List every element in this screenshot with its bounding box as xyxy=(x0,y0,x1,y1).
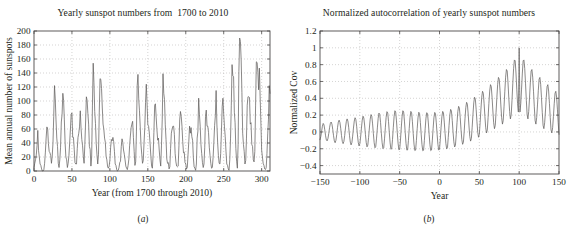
x-axis-label: Year (from 1700 through 2010) xyxy=(92,187,213,199)
panel-b-caption: (b) xyxy=(286,214,572,224)
y-tick-label: 0.6 xyxy=(305,77,317,87)
y-tick-label: 0.4 xyxy=(305,93,317,103)
panel-a: Yearly sunspot numbers from 1700 to 2010… xyxy=(0,0,286,230)
panel-b: Normalized autocorrelation of yearly sun… xyxy=(286,0,572,230)
y-tick-label: 200 xyxy=(17,26,31,36)
y-tick-label: 0.8 xyxy=(305,60,317,70)
y-axis-label: Normalized Cov xyxy=(288,70,299,134)
x-tick-label: 150 xyxy=(141,174,155,184)
x-tick-label: 0 xyxy=(32,174,37,184)
x-tick-label: 50 xyxy=(67,174,77,184)
y-tick-label: 100 xyxy=(17,96,31,106)
x-tick-label: 50 xyxy=(475,177,485,187)
caption-close-paren: ) xyxy=(431,214,434,224)
y-tick-label: 60 xyxy=(21,124,31,134)
x-tick-label: 100 xyxy=(103,174,117,184)
x-tick-label: −50 xyxy=(392,177,407,187)
x-tick-label: 100 xyxy=(512,177,526,187)
x-tick-label: −150 xyxy=(311,177,330,187)
x-tick-label: 300 xyxy=(255,174,269,184)
panel-a-caption: (a) xyxy=(0,214,286,224)
data-series-line xyxy=(320,48,559,151)
y-tick-label: 80 xyxy=(21,110,31,120)
panel-b-plot: −150−100−50050100150−0.4−0.200.20.40.60.… xyxy=(286,0,572,230)
y-tick-label: 1.2 xyxy=(305,26,317,36)
x-tick-label: 150 xyxy=(552,177,566,187)
y-tick-label: 40 xyxy=(21,138,31,148)
x-tick-label: 0 xyxy=(437,177,442,187)
x-axis-label: Year xyxy=(431,190,449,201)
x-tick-label: 200 xyxy=(179,174,193,184)
y-tick-label: −0.4 xyxy=(300,161,317,171)
y-axis-label: Mean annual number of sunspots xyxy=(3,37,14,165)
x-tick-label: −100 xyxy=(350,177,369,187)
panel-a-plot: 0501001502002503000204060801001201401601… xyxy=(0,0,286,230)
y-tick-label: 0 xyxy=(26,166,31,176)
y-tick-label: 1 xyxy=(312,43,317,53)
x-tick-label: 250 xyxy=(217,174,231,184)
y-tick-label: 180 xyxy=(17,40,31,50)
data-series-line xyxy=(34,38,270,171)
y-tick-label: 20 xyxy=(21,152,31,162)
y-tick-label: −0.2 xyxy=(300,144,317,154)
y-tick-label: 140 xyxy=(17,68,31,78)
y-tick-label: 0.2 xyxy=(305,110,317,120)
y-tick-label: 120 xyxy=(17,82,31,92)
sunspot-figure: Yearly sunspot numbers from 1700 to 2010… xyxy=(0,0,572,230)
y-tick-label: 160 xyxy=(17,54,31,64)
y-tick-label: 0 xyxy=(312,127,317,137)
caption-close-paren: ) xyxy=(145,214,148,224)
